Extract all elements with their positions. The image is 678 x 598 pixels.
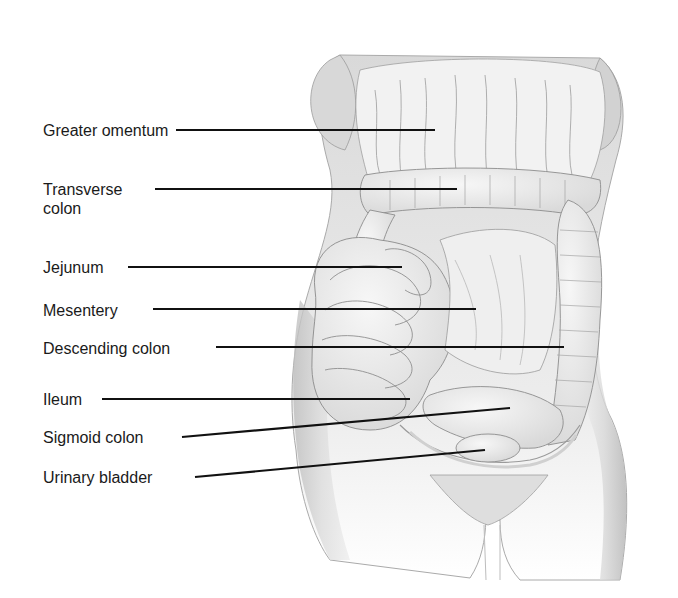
label-jejunum: Jejunum (43, 258, 103, 277)
label-descending-colon: Descending colon (43, 339, 170, 358)
anatomy-diagram: Greater omentum Transverse colon Jejunum… (0, 0, 678, 598)
mesentery-shape (440, 229, 557, 374)
label-urinary-bladder: Urinary bladder (43, 468, 152, 487)
label-mesentery: Mesentery (43, 301, 118, 320)
label-transverse-colon-line2: colon (43, 199, 122, 218)
greater-omentum-shape (356, 59, 605, 185)
label-sigmoid-colon: Sigmoid colon (43, 428, 144, 447)
label-transverse-colon: Transverse colon (43, 180, 122, 218)
label-greater-omentum: Greater omentum (43, 121, 168, 140)
label-transverse-colon-line1: Transverse (43, 180, 122, 199)
label-ileum: Ileum (43, 390, 82, 409)
torso-illustration (0, 0, 678, 598)
